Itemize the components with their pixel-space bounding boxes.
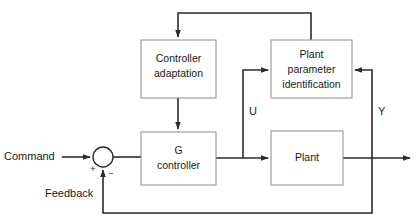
u-signal-label: U — [249, 105, 257, 117]
block-diagram: Controller adaptation Plant parameter id… — [0, 0, 416, 221]
plant-parameter-identification-label-line3: identification — [282, 78, 341, 90]
controller-adaptation-label-line2: adaptation — [154, 67, 203, 79]
wire-y-branch — [355, 70, 372, 158]
controller-adaptation-label-line1: Controller — [156, 52, 202, 64]
summing-junction[interactable] — [93, 147, 113, 167]
plant-parameter-identification-label-line1: Plant — [300, 48, 324, 60]
g-controller-label-line1: G — [174, 144, 182, 156]
diagram-canvas: Controller adaptation Plant parameter id… — [0, 0, 416, 221]
y-signal-label: Y — [378, 105, 386, 117]
wire-param-to-adaptation — [178, 13, 311, 40]
feedback-label: Feedback — [45, 187, 94, 199]
summing-junction-minus-sign: − — [108, 168, 113, 178]
plant-label: Plant — [295, 151, 319, 163]
plant-parameter-identification-label-line2: parameter — [288, 63, 336, 75]
summing-junction-plus-sign: + — [90, 164, 95, 174]
g-controller-label-line2: controller — [157, 159, 201, 171]
command-label: Command — [4, 150, 55, 162]
